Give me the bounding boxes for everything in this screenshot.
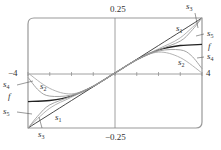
chart-canvas <box>0 0 221 150</box>
y-min-label: −0.25 <box>105 133 126 142</box>
x-min-label: −4 <box>8 69 18 78</box>
label-s3-right: s3 <box>186 2 193 12</box>
label-s3-left: s3 <box>38 130 45 140</box>
label-s2-left: s2 <box>40 82 47 92</box>
x-max-label: 4 <box>206 69 211 78</box>
label-f-left: f <box>8 92 11 101</box>
label-s4-left: s4 <box>3 80 10 90</box>
label-s5-right: s5 <box>207 29 214 39</box>
label-s1-left: s1 <box>55 113 62 123</box>
label-s4-right: s4 <box>207 52 214 62</box>
label-f-right: f <box>208 42 211 51</box>
label-s5-left: s5 <box>3 107 10 117</box>
label-s2-right: s2 <box>178 58 185 68</box>
y-max-label: 0.25 <box>110 5 126 14</box>
label-s1-right: s1 <box>176 24 183 34</box>
